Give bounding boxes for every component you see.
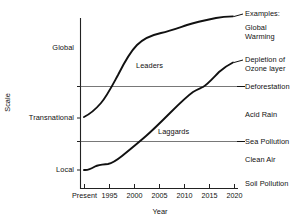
y-tick-label-transnational: Transnational: [8, 114, 74, 123]
x-tick-label-2010: 2010: [171, 192, 198, 201]
annotation-label-examples: Examples:: [245, 10, 280, 19]
annotation-label-acid-rain: Acid Rain: [245, 111, 277, 120]
y-tick-label-local: Local: [18, 166, 74, 175]
annotation-label-ozone-layer: Ozone layer: [245, 65, 285, 74]
annotation-label-warming: Warming: [245, 33, 275, 42]
x-tick-label-1995: 1995: [96, 192, 123, 201]
series-label-leaders: Leaders: [136, 62, 163, 71]
y-tick-label-global: Global: [18, 44, 74, 53]
annotation-label-sea-pollution: Sea Pollution: [245, 138, 289, 147]
x-tick-label-2020: 2020: [221, 192, 248, 201]
annotation-label-deforestation: Deforestation: [245, 83, 290, 92]
chart-figure: Scale Global Transnational Local Present…: [0, 0, 295, 224]
annotation-label-clean-air: Clean Air: [245, 156, 275, 165]
annotation-label-soil-pollution: Soil Pollution: [245, 180, 288, 189]
x-axis-title: Year: [138, 208, 182, 217]
series-label-laggards: Laggards: [158, 128, 189, 137]
x-tick-label-2015: 2015: [196, 192, 223, 201]
x-tick-label-2000: 2000: [121, 192, 148, 201]
x-tick-label-2005: 2005: [146, 192, 173, 201]
